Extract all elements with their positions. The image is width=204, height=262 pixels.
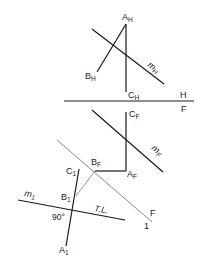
fold-label-f: F <box>181 104 187 114</box>
line-mh <box>92 29 164 84</box>
label-bh: BH <box>85 71 96 82</box>
label-mf: mF <box>149 143 166 159</box>
frontal-view: CF BF AF mF <box>91 109 166 180</box>
label-bf: BF <box>91 157 101 168</box>
fold-label-h: H <box>180 90 187 100</box>
label-af: AF <box>127 169 137 180</box>
line-ah-bh <box>97 24 126 72</box>
horizontal-view: AH BH CH mH <box>85 12 164 101</box>
label-a1: A1 <box>59 245 69 256</box>
label-mh: mH <box>145 60 162 76</box>
label-c1: C1 <box>66 166 77 177</box>
projection-line-bf-b1 <box>76 171 95 196</box>
label-ch: CH <box>128 90 140 101</box>
label-ah: AH <box>122 12 133 23</box>
diagram-canvas: AH BH CH mH H F CF BF AF mF F 1 C1 B1 A1… <box>0 0 204 262</box>
fold-label-f2: F <box>150 208 156 218</box>
line-c1-a1 <box>66 169 79 246</box>
label-b1: B1 <box>61 192 71 203</box>
label-angle-90: 90° <box>52 212 65 222</box>
label-m1: m1 <box>23 188 36 201</box>
fold-label-1: 1 <box>144 221 149 231</box>
label-cf: CF <box>129 109 140 120</box>
line-mf <box>92 110 163 172</box>
label-true-length: T.L. <box>94 203 109 215</box>
auxiliary-view: C1 B1 A1 m1 T.L. 90° <box>18 166 125 256</box>
